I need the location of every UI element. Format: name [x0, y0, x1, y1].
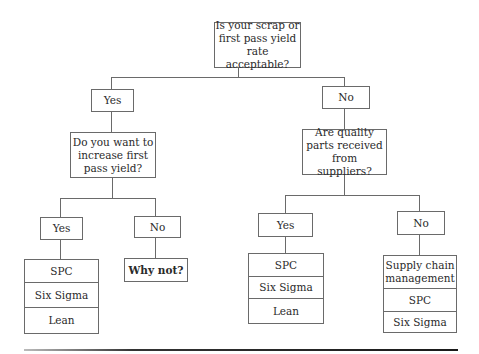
outcome-item: Lean	[25, 308, 98, 333]
outcome-item: Six Sigma	[249, 277, 323, 299]
connector-no-left-to-whynot	[155, 237, 156, 258]
connector-yes-l1-to-q-left	[111, 111, 112, 132]
connector-to-yes-l1	[111, 77, 112, 89]
yes-label: Yes	[53, 222, 71, 235]
no-label: No	[150, 221, 166, 234]
root-question-text: Is your scrap or first pass yield rate a…	[215, 19, 300, 71]
outcome-item: Six Sigma	[384, 312, 456, 332]
connector-yes-left-to-stack	[60, 239, 61, 259]
why-not-box: Why not?	[124, 258, 188, 282]
outcome-stack-right-yes: SPC Six Sigma Lean	[248, 253, 324, 324]
yes-label: Yes	[104, 94, 122, 107]
outcome-item: Six Sigma	[25, 283, 98, 308]
supplier-quality-question-box: Are quality parts received from supplier…	[302, 129, 387, 175]
connector-q-left-stem	[112, 177, 113, 198]
outcome-item: SPC	[25, 260, 98, 283]
outcome-item: SPC	[249, 254, 323, 277]
increase-yield-question-text: Do you want to increase first pass yield…	[71, 136, 155, 175]
no-box-left-level3: No	[134, 216, 181, 238]
bottom-rule-divider	[24, 349, 458, 351]
outcome-stack-left-yes: SPC Six Sigma Lean	[24, 259, 99, 334]
supplier-quality-question-text: Are quality parts received from supplier…	[303, 126, 386, 178]
outcome-item: Lean	[249, 299, 323, 323]
outcome-item: SPC	[384, 289, 456, 312]
connector-to-yes-left-l3	[60, 198, 61, 217]
yes-box-left-level3: Yes	[40, 217, 83, 240]
yes-box-right-level3: Yes	[258, 213, 313, 237]
why-not-text: Why not?	[129, 264, 184, 277]
no-box-right-level3: No	[397, 211, 445, 235]
increase-yield-question-box: Do you want to increase first pass yield…	[70, 132, 156, 178]
outcome-stack-right-no: Supply chain management SPC Six Sigma	[383, 255, 457, 333]
root-question-box: Is your scrap or first pass yield rate a…	[214, 22, 301, 68]
connector-to-yes-right-l3	[285, 195, 286, 213]
connector-root-horizontal	[111, 77, 345, 78]
connector-yes-right-to-stack	[285, 236, 286, 253]
outcome-item: Supply chain management	[384, 256, 456, 289]
connector-to-no-left-l3	[155, 198, 156, 216]
connector-q-right-horizontal	[285, 195, 420, 196]
no-label: No	[338, 91, 354, 104]
connector-no-right-to-stack	[419, 234, 420, 255]
connector-q-left-horizontal	[60, 198, 156, 199]
no-box-level1: No	[322, 86, 370, 109]
no-label: No	[413, 217, 429, 230]
connector-to-no-right-l3	[419, 195, 420, 211]
yes-label: Yes	[277, 219, 295, 232]
yes-box-level1: Yes	[91, 89, 134, 112]
